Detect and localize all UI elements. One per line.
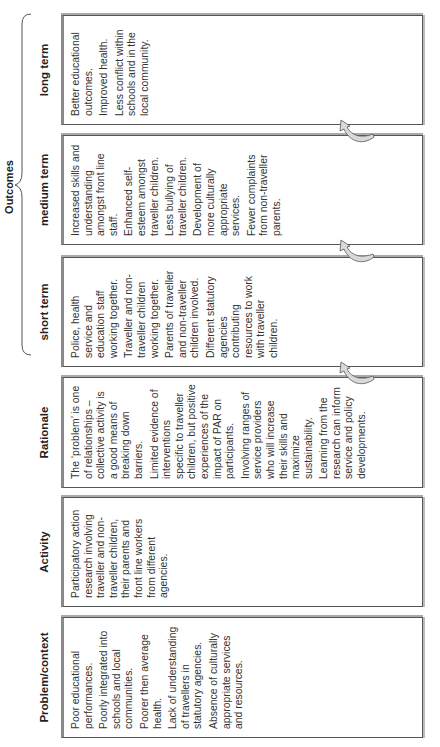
short-term-box: Police, health service and education sta…	[61, 257, 423, 367]
medium-term-item: Fewer complaints from non-traveller pare…	[246, 142, 284, 236]
header-activity: Activity	[38, 497, 50, 607]
header-problem-context: Problem/context	[38, 617, 50, 738]
short-term-item: Parents of traveller and non-traveller c…	[164, 264, 202, 358]
problem-item: Absence of culturally appropriate servic…	[208, 624, 246, 729]
problem-item: Lack of understanding of travellers in s…	[167, 624, 205, 729]
header-short-term: short term	[38, 257, 50, 367]
curved-arrow-icon	[336, 359, 376, 389]
header-long-term: long term	[38, 15, 50, 125]
problem-context-box: Poor educational performances. Poorly in…	[61, 617, 423, 738]
problem-item: Poorer then average health.	[139, 624, 164, 729]
long-term-item: Improved health.	[98, 22, 111, 116]
problem-item: Poor educational performances.	[70, 624, 95, 729]
long-term-box: Better educational outcomes. Improved he…	[61, 15, 423, 125]
medium-term-item: Less bullying of traveller children.	[164, 142, 189, 236]
rationale-item: Learning from the research can inform se…	[318, 384, 368, 479]
medium-term-box: Increased skills and understanding among…	[61, 135, 423, 245]
rationale-item: Involving ranges of service providers wh…	[240, 384, 316, 479]
medium-term-item: Increased skills and understanding among…	[70, 142, 120, 236]
medium-term-item: Enhanced self-esteem amongst traveller c…	[123, 142, 161, 236]
curved-arrow-icon	[336, 237, 376, 267]
long-term-item: Better educational outcomes.	[70, 22, 95, 116]
rationale-item: The ‘problem’ is one of relationships – …	[70, 384, 146, 479]
activity-item: Participatory action research involving …	[70, 504, 171, 598]
short-term-item: Police, health service and education sta…	[70, 264, 120, 358]
rationale-item: Limited evidence of interventions specif…	[149, 384, 237, 479]
rationale-box: The ‘problem’ is one of relationships – …	[61, 377, 423, 488]
long-term-item: Less conflict within schools and in the …	[114, 22, 152, 116]
problem-item: Poorly integrated into schools and local…	[98, 624, 136, 729]
logic-model-diagram: Outcomes Problem/context Activity Ration…	[0, 0, 440, 747]
short-term-item: Traveller and non-traveller children wor…	[123, 264, 161, 358]
medium-term-item: Development of more culturally appropria…	[192, 142, 242, 236]
curved-arrow-icon	[336, 117, 376, 147]
short-term-item: Different statutory agencies contributin…	[205, 264, 281, 358]
header-rationale: Rationale	[38, 377, 50, 488]
activity-box: Participatory action research involving …	[61, 497, 423, 607]
outcomes-brace-icon	[14, 12, 32, 357]
header-medium-term: medium term	[38, 135, 50, 245]
